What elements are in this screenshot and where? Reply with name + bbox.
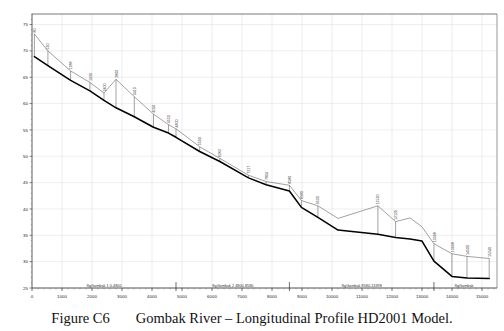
y-tick-label: 35 — [23, 233, 28, 238]
cross-section-label: 7217 — [247, 166, 251, 174]
x-tick-label: 8000 — [267, 294, 277, 299]
x-tick-label: 7000 — [237, 294, 247, 299]
cross-section-label: 1930 — [89, 73, 93, 81]
y-tick-label: 70 — [23, 48, 28, 53]
x-tick-label: 2000 — [87, 294, 97, 299]
y-tick-label: 60 — [23, 101, 28, 106]
longitudinal-profile-chart: 2530354045505560657075010002000300040005… — [0, 0, 504, 306]
cross-section-label: 8980 — [300, 191, 304, 199]
figure-container: 2530354045505560657075010002000300040005… — [0, 0, 504, 331]
x-tick-label: 13000 — [416, 294, 429, 299]
cross-section-label: 15240 — [488, 247, 492, 257]
cross-section-label: 2800 — [115, 70, 119, 78]
plot-background — [32, 14, 497, 288]
cross-section-label: 13998 — [451, 242, 455, 252]
x-tick-label: 5000 — [177, 294, 187, 299]
cross-section-label: 4050 — [152, 105, 156, 113]
caption-number: Figure C6 — [51, 310, 109, 327]
x-tick-label: 4000 — [147, 294, 157, 299]
reach-label: SgGombak 1 0-4800 — [86, 284, 121, 288]
reach-label: SgGombak 8580-13398 — [342, 284, 382, 288]
cross-section-label: 4800 — [175, 119, 179, 127]
x-tick-label: 1000 — [57, 294, 67, 299]
cross-section-label: 5590 — [198, 137, 202, 145]
cross-section-label: 11530 — [377, 195, 381, 205]
chart-svg: 2530354045505560657075010002000300040005… — [0, 0, 504, 306]
y-tick-label: 50 — [23, 154, 28, 159]
cross-section-label: 13398 — [433, 232, 437, 242]
x-tick-label: 14000 — [446, 294, 459, 299]
x-tick-label: 0 — [31, 294, 34, 299]
y-tick-label: 65 — [23, 75, 28, 80]
cross-section-label: 2400 — [103, 84, 107, 92]
x-tick-label: 12000 — [386, 294, 399, 299]
y-axis: 2530354045505560657075 — [23, 14, 32, 291]
cross-section-label: 8580 — [288, 176, 292, 184]
cross-section-label: 530 — [47, 43, 51, 49]
y-tick-label: 30 — [23, 259, 28, 264]
reach-label: SgGombak — [454, 284, 473, 288]
cross-section-label: 4550 — [167, 115, 171, 123]
caption-text: Gombak River – Longitudinal Profile HD20… — [136, 310, 453, 327]
x-tick-label: 11000 — [356, 294, 368, 299]
x-tick-label: 3000 — [117, 294, 127, 299]
x-axis: 0100020003000400050006000700080009000100… — [31, 288, 494, 299]
cross-section-label: 14500 — [466, 245, 470, 255]
y-tick-label: 55 — [23, 128, 28, 133]
x-tick-label: 15000 — [476, 294, 489, 299]
reach-label: SgGombak 2 4800-8580 — [212, 284, 253, 288]
cross-section-label: 7804 — [265, 172, 269, 180]
cross-section-label: 80 — [33, 29, 37, 33]
x-tick-label: 9000 — [297, 294, 307, 299]
x-tick-label: 10000 — [326, 294, 339, 299]
cross-section-label: 9530 — [317, 196, 321, 204]
y-tick-label: 25 — [23, 286, 28, 291]
x-tick-label: 6000 — [207, 294, 217, 299]
cross-section-label: 3410 — [133, 87, 137, 95]
cross-section-label: 12120 — [394, 210, 398, 220]
figure-caption: Figure C6 Gombak River – Longitudinal Pr… — [0, 306, 504, 331]
cross-section-label: 1288 — [69, 61, 73, 69]
y-tick-label: 40 — [23, 207, 28, 212]
cross-section-label: 6262 — [218, 149, 222, 157]
y-tick-label: 45 — [23, 180, 28, 185]
y-tick-label: 75 — [23, 22, 28, 27]
